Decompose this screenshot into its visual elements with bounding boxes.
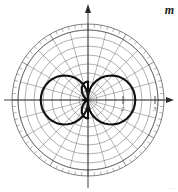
corner-watermark: ==: [169, 186, 176, 191]
x-tick-label-1: 3: [152, 105, 157, 113]
x-tick-label-0: 2: [121, 105, 125, 113]
polar-plot-canvas: 2 3: [0, 0, 178, 192]
axis-symbol-label: m: [165, 4, 174, 16]
polar-figure: 2 3 m ==: [0, 0, 178, 192]
